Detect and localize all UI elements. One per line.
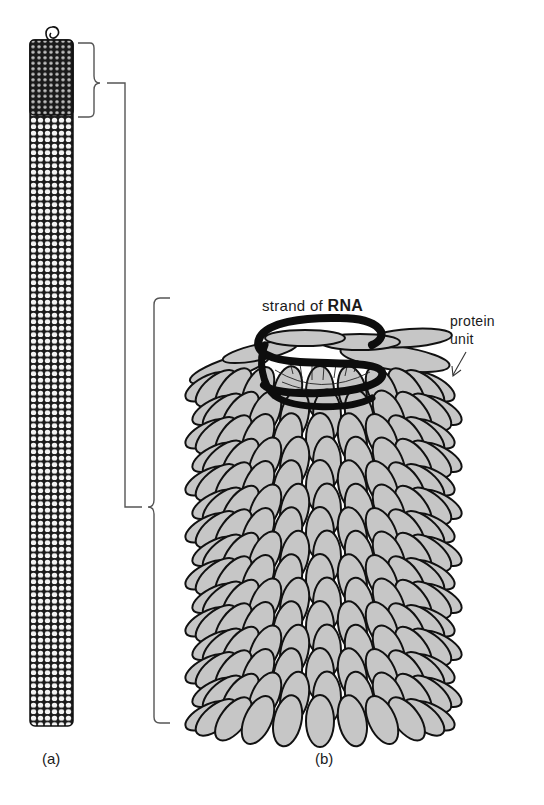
protein-unit-label: protein unit: [450, 312, 495, 348]
virus-diagram: [0, 0, 544, 805]
rod-highlighted-segment: [30, 40, 73, 115]
protein-unit-arrow: [452, 352, 466, 376]
rna-label-prefix: strand of: [262, 297, 328, 314]
protein-unit: [306, 695, 334, 747]
rod-body: [30, 40, 73, 726]
large-brace: [148, 298, 170, 723]
small-brace: [78, 43, 100, 117]
protein-unit-rows: [181, 362, 466, 749]
connector-line: [107, 83, 142, 507]
panel-label-a: (a): [42, 750, 60, 767]
rna-strand-label: strand of RNA: [262, 297, 363, 315]
rna-label-bold: RNA: [328, 297, 364, 314]
panel-label-b: (b): [315, 750, 333, 767]
protein-label-line1: protein: [450, 312, 495, 330]
protein-label-line2: unit: [450, 330, 495, 348]
rod-panel-a: [30, 27, 73, 726]
